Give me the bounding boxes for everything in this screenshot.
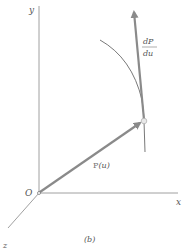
tangent-denominator: du <box>143 49 153 58</box>
y-axis-label: y <box>28 5 35 15</box>
origin-label: O <box>25 188 33 198</box>
position-vector-label: P(u) <box>93 161 110 170</box>
parametric-curve-diagram: y x z O P(u) dP du (b) <box>0 0 187 251</box>
tangent-vector-arrow <box>134 12 144 120</box>
x-axis-label: x <box>176 197 181 207</box>
position-vector-label-arg: (u) <box>98 161 109 170</box>
tangent-vector-label: dP du <box>142 37 157 58</box>
z-axis-label: z <box>2 241 8 250</box>
z-axis <box>8 193 39 228</box>
curve-point <box>141 118 147 124</box>
position-vector-arrow <box>40 123 140 192</box>
figure-caption: (b) <box>84 235 95 244</box>
origin-point <box>38 192 41 195</box>
tangent-numerator: dP <box>143 37 154 46</box>
